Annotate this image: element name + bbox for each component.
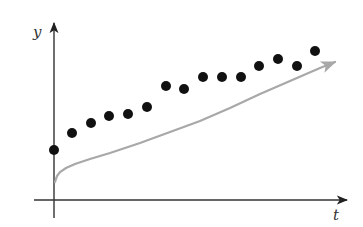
x-axis-label: t (333, 206, 340, 224)
data-point (67, 128, 77, 138)
data-point (310, 46, 320, 56)
data-point (217, 72, 227, 82)
data-point (198, 72, 208, 82)
y-axis-label: y (32, 23, 42, 41)
data-point (123, 109, 133, 119)
data-point (292, 61, 302, 71)
data-point (86, 118, 96, 128)
data-point (179, 84, 189, 94)
data-point (49, 145, 59, 155)
data-point (273, 54, 283, 64)
data-point (142, 102, 152, 112)
data-point (161, 81, 171, 91)
scatter-chart: y t (0, 0, 363, 227)
data-point (104, 111, 114, 121)
data-points (49, 46, 320, 155)
data-point (236, 72, 246, 82)
data-point (254, 61, 264, 71)
trend-curve (55, 62, 335, 182)
